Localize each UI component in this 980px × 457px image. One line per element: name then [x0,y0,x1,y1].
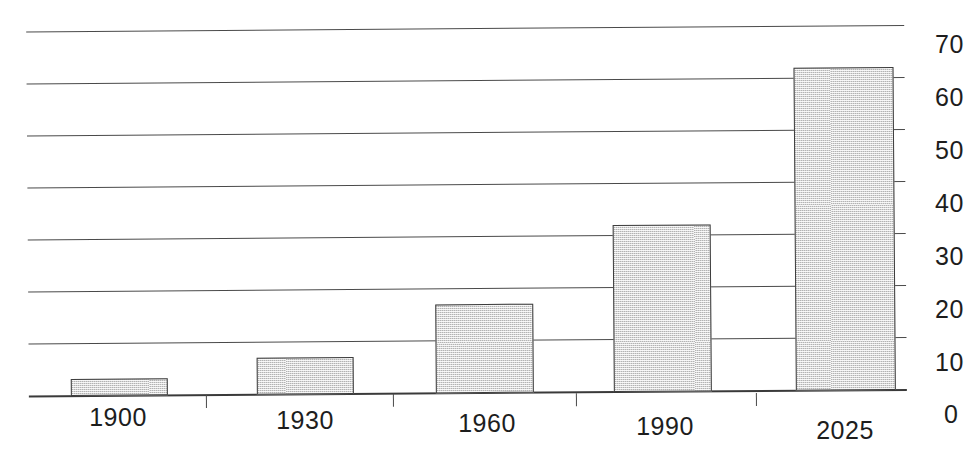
xtick-label-1930: 1930 [276,406,334,435]
plot-area [0,0,980,457]
ytick-label-30: 30 [935,242,964,271]
bar-2025 [793,67,895,391]
bar-1960 [435,304,534,394]
xtick-label-2025: 2025 [816,416,874,445]
xtick-label-1900: 1900 [89,403,147,432]
bar-1930 [257,357,354,395]
ytick-label-10: 10 [935,348,964,377]
xtick-label-1960: 1960 [458,409,516,438]
ytick-label-60: 60 [935,83,964,112]
gridline-30 [28,233,906,240]
xtick-sep-2 [393,394,394,407]
bar-1900 [71,378,168,396]
xtick-sep-3 [576,393,577,406]
bar-chart: 70 60 50 40 30 20 10 0 1900 1930 1960 19… [0,0,980,457]
gridline-50 [27,129,905,136]
xtick-label-1990: 1990 [636,412,694,441]
ytick-label-50: 50 [935,136,964,165]
bar-1990 [613,224,712,392]
xtick-sep-4 [756,393,757,406]
gridline-70 [26,25,904,32]
ytick-label-70: 70 [935,30,964,59]
ytick-label-0: 0 [944,400,958,429]
gridline-20 [28,285,906,292]
ytick-label-40: 40 [935,189,964,218]
ytick-label-20: 20 [935,295,964,324]
gridline-40 [27,181,905,188]
gridline-60 [27,77,905,84]
xtick-sep-1 [206,395,207,408]
